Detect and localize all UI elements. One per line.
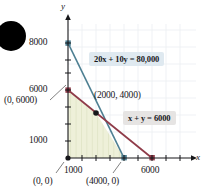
point-label-y-intercept: (0, 6000) [4, 96, 37, 106]
y-tick-label-6000: 6000 [29, 85, 47, 95]
x-axis-label: x [196, 153, 200, 162]
point-label-origin: (0, 0) [33, 177, 52, 187]
y-tick-label-8000: 8000 [29, 38, 47, 48]
y-axis-label: y [61, 2, 65, 11]
equation-label-maroon: x + y = 6000 [123, 111, 176, 125]
y-tick-label-1000: 1000 [29, 136, 47, 146]
intersection-point-marker [93, 110, 99, 116]
point-label-x-intercept: (4000, 0) [86, 177, 119, 187]
point-label-intersection: (2000, 4000) [94, 91, 141, 101]
linear-programming-figure: y x 8000 6000 1000 1000 6000 (0, 0) (0, … [0, 0, 205, 192]
origin-point-marker [65, 155, 70, 160]
x-tick-label-1000: 1000 [64, 166, 82, 176]
equation-label-teal: 20x + 10y = 80,000 [89, 52, 164, 66]
x-tick-label-6000: 6000 [141, 166, 159, 176]
